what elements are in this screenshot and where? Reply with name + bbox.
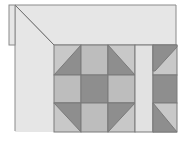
binding-strip bbox=[9, 5, 15, 45]
quilt-diagram bbox=[0, 0, 188, 142]
quilt-block-partial bbox=[153, 45, 177, 132]
sashing-strip bbox=[135, 45, 153, 132]
quilt-block bbox=[54, 45, 135, 132]
